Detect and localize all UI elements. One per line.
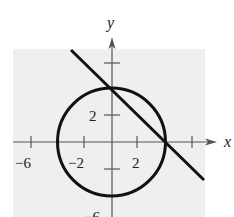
x-tick-label-neg6: −6 — [15, 155, 31, 171]
x-tick-label-2: 2 — [132, 155, 140, 171]
y-axis-label: y — [105, 14, 115, 32]
y-tick-label-2: 2 — [89, 108, 97, 124]
chart: −6 −2 2 2 −6 x y — [0, 0, 234, 217]
y-tick-label-neg6: −6 — [84, 209, 100, 217]
shaded-region — [13, 49, 205, 217]
x-tick-label-neg2: −2 — [68, 155, 84, 171]
x-axis-label: x — [223, 133, 231, 150]
